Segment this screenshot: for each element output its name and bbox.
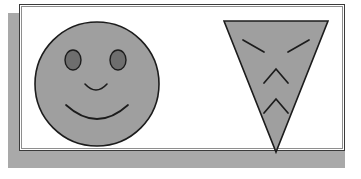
scene-canvas [0, 0, 361, 179]
triangle-shape[interactable] [224, 21, 328, 152]
left-eye [65, 50, 81, 70]
shapes-layer [0, 0, 361, 179]
right-eye [110, 50, 126, 70]
angry-triangle-face[interactable] [224, 21, 328, 152]
smiley-face[interactable] [35, 22, 159, 146]
smiley-face-circle[interactable] [35, 22, 159, 146]
